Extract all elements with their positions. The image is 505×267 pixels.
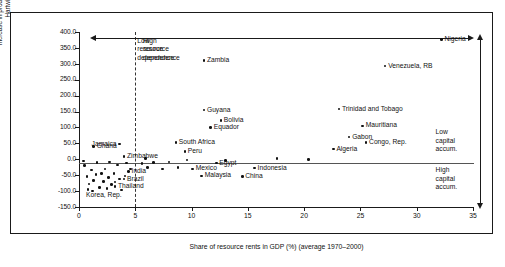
x-axis-tick-label: 5	[115, 213, 155, 220]
data-point	[184, 150, 187, 153]
high-capital-accum-line: capital	[436, 175, 458, 183]
data-point-label: China	[245, 173, 262, 180]
x-axis-tick-label: 0	[59, 213, 99, 220]
y-axis-tick: 200.0	[0, 92, 76, 93]
arrow-shaft	[136, 38, 469, 39]
x-axis-tick-mark	[473, 207, 474, 211]
data-point	[440, 38, 443, 41]
data-point-label: Nigeria	[444, 36, 465, 43]
high-capital-accum-line: accum.	[436, 183, 458, 191]
low-capital-accum-arrow	[477, 34, 484, 163]
data-point-label: Venezuela, RB	[388, 63, 432, 70]
data-point	[175, 141, 178, 144]
data-point	[102, 180, 105, 183]
data-point	[152, 161, 155, 164]
high-capital-accum-arrow	[477, 163, 484, 209]
data-point	[209, 126, 212, 129]
y-axis-tick-label: 100.0	[4, 124, 76, 131]
data-point	[100, 172, 103, 175]
y-axis-tick-label: 350.0	[4, 45, 76, 52]
high-resource-dependence-line: resource	[143, 45, 180, 53]
high-capital-accum-line: High	[436, 166, 458, 174]
data-point	[98, 186, 101, 189]
data-point	[125, 162, 128, 165]
y-axis-tick-label: 0.0	[4, 156, 76, 163]
data-point-label: Algeria	[336, 146, 357, 153]
data-point-label: Equador	[214, 124, 239, 131]
data-point-label: Korea, Rep.	[86, 192, 122, 199]
data-point-label: Thailand	[118, 183, 144, 190]
low-capital-accum-line: Low	[436, 128, 458, 136]
data-point	[108, 161, 111, 164]
data-point	[116, 164, 119, 167]
x-axis-tick-mark	[360, 207, 361, 211]
figure-border	[10, 12, 493, 234]
data-point-label: India	[132, 168, 147, 175]
x-axis-tick-mark	[135, 207, 136, 211]
x-axis-tick-mark	[192, 207, 193, 211]
high-resource-dependence: Highresourcedependence	[143, 37, 180, 62]
x-axis-tick-mark	[79, 207, 80, 211]
x-axis-tick-label: 25	[340, 213, 380, 220]
data-point	[307, 158, 310, 161]
y-axis-tick: 0.0	[0, 156, 76, 157]
arrow-head-right	[468, 35, 474, 41]
chart-figure: Increase in produced capital standard (%…	[0, 0, 505, 267]
low-capital-accum-line: accum.	[436, 145, 458, 153]
arrow-shaft	[480, 163, 481, 204]
data-point-label: Congo, Rep.	[369, 139, 407, 146]
low-capital-accum-line: capital	[436, 137, 458, 145]
data-point	[361, 125, 364, 128]
y-axis-tick-label: 400.0	[4, 29, 76, 36]
y-axis-tick: 150.0	[0, 108, 76, 109]
data-point	[146, 166, 149, 169]
low-capital-accum: Lowcapitalaccum.	[436, 128, 458, 153]
data-point-label: Egypt	[219, 160, 236, 167]
data-point	[220, 119, 223, 122]
arrow-shaft	[95, 38, 136, 39]
data-point-label: Zambia	[207, 57, 229, 64]
data-point	[241, 175, 244, 178]
y-axis-tick-label: -100.0	[4, 188, 76, 195]
y-axis-line	[79, 32, 80, 208]
y-axis-tick-label: -150.0	[4, 204, 76, 211]
y-axis-tick: 250.0	[0, 76, 76, 77]
high-resource-dependence-line: High	[143, 37, 180, 45]
y-axis-tick: -100.0	[0, 188, 76, 189]
data-point-label: Guyana	[207, 107, 230, 114]
arrow-shaft	[480, 39, 481, 163]
data-point-label: Peru	[188, 148, 202, 155]
data-point	[95, 173, 98, 176]
y-axis-tick: 50.0	[0, 140, 76, 141]
data-point	[113, 172, 116, 175]
y-axis-tick-label: 250.0	[4, 76, 76, 83]
low-resource-dependence-arrow	[90, 35, 136, 42]
data-point	[161, 168, 164, 171]
data-point-label: Zimbabwe	[127, 153, 158, 160]
x-axis-tick-mark	[304, 207, 305, 211]
x-axis-line	[79, 207, 474, 208]
y-axis-tick-label: 150.0	[4, 108, 76, 115]
y-axis-tick: 300.0	[0, 61, 76, 62]
data-point	[191, 168, 194, 171]
high-resource-dependence-arrow	[136, 35, 474, 42]
x-axis-tick-mark	[417, 207, 418, 211]
data-point	[114, 185, 117, 188]
x-axis-tick-mark	[248, 207, 249, 211]
data-point-label: Mauritiana	[366, 122, 397, 129]
y-axis-tick-label: 200.0	[4, 92, 76, 99]
data-point	[110, 183, 113, 186]
x-axis-tick-label: 15	[228, 213, 268, 220]
y-axis-tick: 400.0	[0, 29, 76, 30]
data-point	[200, 175, 203, 178]
y-axis-tick-label: 300.0	[4, 61, 76, 68]
data-point	[107, 176, 110, 179]
data-point-label: Trinidad and Tobago	[342, 106, 403, 113]
y-axis-tick: -50.0	[0, 172, 76, 173]
high-resource-dependence-line: dependence	[143, 54, 180, 62]
data-point	[92, 179, 95, 182]
data-point-label: Malaysia	[205, 172, 231, 179]
y-axis-tick: 350.0	[0, 45, 76, 46]
x-axis-tick-label: 30	[397, 213, 437, 220]
x-axis-tick-label: 35	[453, 213, 493, 220]
